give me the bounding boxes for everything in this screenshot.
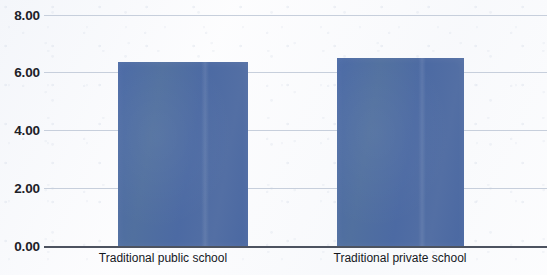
x-axis-line bbox=[44, 246, 547, 248]
bar-traditional-private-school[interactable] bbox=[337, 58, 464, 247]
x-axis-label-traditional-private-school: Traditional private school bbox=[300, 252, 500, 265]
y-axis-tick-label-2: 2.00 bbox=[0, 182, 40, 196]
bar-chart: 8.00 6.00 4.00 2.00 0.00 Traditional pub… bbox=[0, 0, 547, 275]
y-axis-tick-label-4: 4.00 bbox=[0, 124, 40, 138]
y-axis-tick-label-8: 8.00 bbox=[0, 9, 40, 23]
plot-area bbox=[44, 0, 547, 275]
bar-traditional-public-school[interactable] bbox=[118, 62, 248, 247]
gridline-8 bbox=[44, 15, 547, 16]
y-axis-tick-label-6: 6.00 bbox=[0, 66, 40, 80]
y-axis-tick-label-0: 0.00 bbox=[0, 240, 40, 254]
x-axis-label-traditional-public-school: Traditional public school bbox=[63, 252, 263, 265]
